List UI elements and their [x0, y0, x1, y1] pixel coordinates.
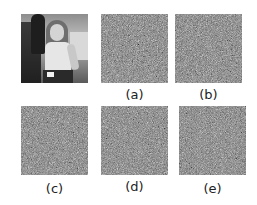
panel-label-c: (c): [21, 182, 88, 196]
panel-label-a: (a): [101, 88, 168, 102]
noise-panel-e: [179, 106, 246, 175]
noise-panel-c: [21, 106, 88, 175]
noise-panel-a: [101, 14, 168, 83]
noise-panel-b: [175, 14, 242, 83]
panel-label-b: (b): [175, 88, 242, 102]
noise-panel-d: [101, 106, 168, 175]
panel-label-d: (d): [101, 180, 168, 194]
photo-background-person: [31, 14, 45, 54]
original-photo: [21, 14, 88, 83]
panel-label-e: (e): [179, 182, 246, 196]
photo-face: [50, 24, 64, 41]
photo-badge: [47, 72, 54, 77]
